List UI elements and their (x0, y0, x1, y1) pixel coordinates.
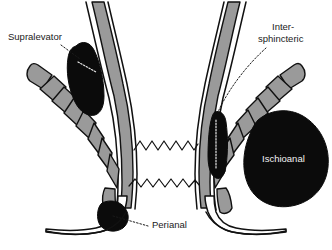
label-intersphincteric-line2: sphincteric (258, 33, 304, 44)
label-supralevator: Supralevator (8, 31, 62, 42)
anorectal-abscess-figure: Supralevator Perianal (0, 0, 332, 250)
label-ischioanal: Ischioanal (262, 153, 305, 164)
abscess-intersphincteric (208, 111, 228, 178)
label-perianal: Perianal (152, 219, 187, 230)
anatomy-diagram: Supralevator Perianal (0, 0, 332, 250)
label-intersphincteric-line1: Inter- (272, 21, 294, 32)
